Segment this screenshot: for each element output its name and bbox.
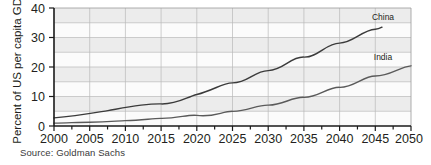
series-label-china-text: China bbox=[372, 12, 394, 22]
x-tick-label: 2020 bbox=[183, 132, 211, 146]
series-label-india: India bbox=[374, 52, 393, 62]
y-tick-label: 30 bbox=[31, 31, 45, 45]
x-tick-label: 2050 bbox=[395, 132, 423, 146]
x-tick-label: 2045 bbox=[361, 132, 389, 146]
x-tick-labels: 2000 2005 2010 2015 2020 2025 2030 2035 … bbox=[40, 132, 423, 146]
y-tick-label: 10 bbox=[31, 90, 45, 104]
x-tick-label: 2005 bbox=[76, 132, 104, 146]
x-tick-label: 2010 bbox=[111, 132, 139, 146]
x-tick-label: 2035 bbox=[290, 132, 318, 146]
x-tick-label: 2030 bbox=[254, 132, 282, 146]
y-axis-title: Percent of US per capita GDP bbox=[11, 0, 23, 144]
x-tick-label: 2000 bbox=[40, 132, 68, 146]
x-tick-label: 2015 bbox=[147, 132, 175, 146]
source-note: Source: Goldman Sachs bbox=[20, 147, 125, 158]
x-tick-label: 2040 bbox=[326, 132, 354, 146]
series-label-china: China bbox=[372, 12, 394, 22]
chart-figure: 40 30 20 10 0 2000 2005 2010 2015 2020 2… bbox=[0, 0, 431, 165]
x-axis bbox=[54, 126, 411, 131]
y-tick-label: 40 bbox=[31, 2, 45, 16]
y-tick-labels: 40 30 20 10 0 bbox=[31, 2, 45, 134]
series-label-india-text: India bbox=[374, 52, 393, 62]
x-tick-label: 2025 bbox=[219, 132, 247, 146]
y-tick-label: 20 bbox=[31, 61, 45, 75]
gdp-convergence-line-chart: 40 30 20 10 0 2000 2005 2010 2015 2020 2… bbox=[0, 0, 431, 165]
y-axis bbox=[49, 8, 54, 126]
